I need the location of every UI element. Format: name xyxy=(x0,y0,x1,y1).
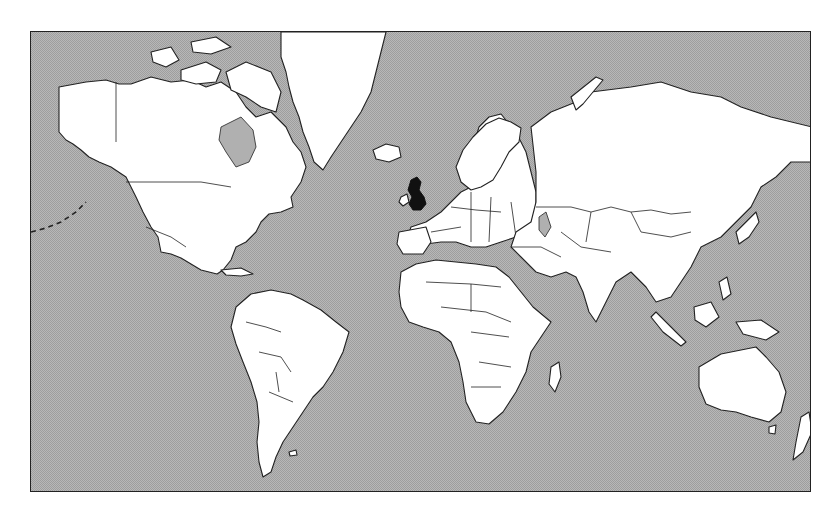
region-new-guinea xyxy=(736,320,779,340)
region-philippines xyxy=(719,277,731,300)
world-map xyxy=(31,32,811,492)
region-borneo xyxy=(694,302,719,327)
region-new-zealand xyxy=(793,412,811,460)
aleutian-line xyxy=(31,202,86,232)
region-iberia xyxy=(397,227,431,254)
region-arctic-islands xyxy=(181,62,221,84)
region-south-america xyxy=(231,290,349,477)
region-tasmania xyxy=(769,425,776,434)
region-ireland xyxy=(399,194,409,206)
region-united-kingdom xyxy=(408,177,426,210)
world-map-frame xyxy=(30,31,811,492)
region-cuba xyxy=(221,268,253,276)
region-australia xyxy=(699,347,786,422)
region-iceland xyxy=(373,144,401,162)
region-madagascar xyxy=(549,362,561,392)
region-asia xyxy=(511,82,811,322)
region-falklands xyxy=(289,450,297,456)
region-sumatra xyxy=(651,312,686,346)
region-arctic-island-3 xyxy=(191,37,231,54)
region-arctic-island-2 xyxy=(151,47,179,67)
